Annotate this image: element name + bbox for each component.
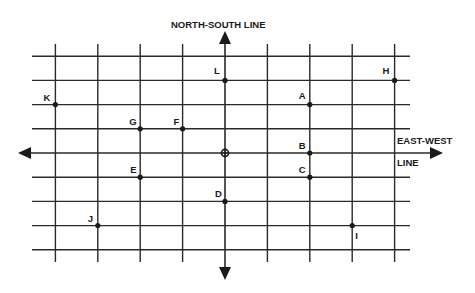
north-south-axis-label: NORTH-SOUTH LINE xyxy=(171,19,265,30)
point-label: B xyxy=(299,140,306,151)
point-label: A xyxy=(299,90,306,101)
point-label: C xyxy=(299,164,306,175)
point-dot xyxy=(95,223,100,228)
point-label: E xyxy=(130,164,136,175)
west-arrow-icon xyxy=(18,147,31,159)
point-label: D xyxy=(215,188,222,199)
point-dot xyxy=(180,126,185,131)
point-label: J xyxy=(88,213,93,224)
point-dot xyxy=(53,102,58,107)
axes xyxy=(18,31,443,280)
point-label: G xyxy=(129,116,136,127)
point-dot xyxy=(222,199,227,204)
point-label: I xyxy=(355,230,358,241)
point-label: F xyxy=(174,116,180,127)
point-dot xyxy=(307,175,312,180)
south-arrow-icon xyxy=(219,267,231,280)
point-dot xyxy=(307,102,312,107)
north-arrow-icon xyxy=(219,31,231,44)
point-label: L xyxy=(214,65,220,76)
point-label: K xyxy=(43,92,50,103)
coordinate-grid-diagram: NORTH-SOUTH LINE EAST-WEST LINE ABCDEFGH… xyxy=(0,0,475,293)
origin-marker-icon xyxy=(221,149,228,156)
east-west-axis-label: EAST-WEST xyxy=(397,135,453,146)
point-label: H xyxy=(383,65,390,76)
point-dot xyxy=(307,150,312,155)
east-west-axis-label-line2: LINE xyxy=(397,157,419,168)
point-dot xyxy=(350,223,355,228)
east-arrow-icon xyxy=(430,147,443,159)
point-dot xyxy=(392,78,397,83)
point-dot xyxy=(222,78,227,83)
point-dot xyxy=(138,175,143,180)
point-dot xyxy=(138,126,143,131)
